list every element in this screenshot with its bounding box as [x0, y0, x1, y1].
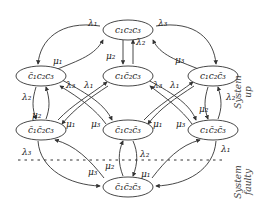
edge-label: λ₁ [169, 80, 179, 90]
edge-label: μ₁ [53, 56, 62, 66]
node-label: c₁c̄₂c̄₃ [200, 125, 226, 135]
markov-diagram: c₁c₂c₃ c̄₁c₂c₃ c₁c̄₂c₃ c₁c₂c̄₃ c̄₁c̄₂c₃ … [0, 0, 259, 207]
region-labels: System up System faulty [233, 75, 253, 198]
edge-label: λ₂ [135, 37, 146, 47]
edge-labels: λ₁ λ₃ μ₁ μ₃ λ₂ μ₂ λ₂ μ₂ λ₃ λ₁ μ₁ μ₃ λ₃ λ… [21, 18, 236, 179]
edge-label: λ₁ [220, 144, 230, 154]
edge-label: μ₃ [88, 167, 98, 177]
region-label-up-1: System [233, 75, 243, 108]
node-label: c₁c̄₂c₃ [115, 71, 141, 81]
edge-label: λ₂ [139, 149, 150, 159]
node-label: c̄₁c̄₂c₃ [28, 125, 54, 135]
edge-label: μ₁ [141, 169, 150, 179]
edge-label: λ₃ [157, 18, 168, 28]
edge-label: μ₃ [176, 119, 186, 129]
region-label-faulty-2: faulty [243, 168, 253, 196]
edge-label: μ₂ [106, 51, 116, 61]
edge-label: λ₃ [21, 147, 32, 157]
edge-label: λ₂ [21, 92, 32, 102]
node-label: c̄₁c₂c̄₃ [115, 125, 141, 135]
edge-label: μ₂ [105, 161, 115, 171]
region-label-faulty-1: System [233, 165, 243, 198]
node-label: c₁c₂c̄₃ [200, 71, 226, 81]
edges [33, 25, 221, 186]
edge-label: λ₃ [65, 80, 76, 90]
node-label: c̄₁c₂c₃ [28, 71, 54, 81]
edge-label: λ₁ [87, 18, 97, 28]
diagram-svg: c₁c₂c₃ c̄₁c₂c₃ c₁c̄₂c₃ c₁c₂c̄₃ c̄₁c̄₂c₃ … [0, 0, 259, 207]
region-label-up-2: up [243, 86, 253, 98]
node-label: c̄₁c̄₂c̄₃ [115, 182, 141, 192]
node-label: c₁c₂c₃ [115, 25, 141, 35]
edge-label: μ₃ [175, 55, 185, 65]
node-labels: c₁c₂c₃ c̄₁c₂c₃ c₁c̄₂c₃ c₁c₂c̄₃ c̄₁c̄₂c₃ … [28, 25, 226, 192]
edge-label: λ₁ [83, 80, 93, 90]
edge-label: μ₁ [66, 119, 75, 129]
edge-label: λ₃ [152, 80, 163, 90]
edge-label: μ₂ [32, 110, 42, 120]
edge-label: μ₁ [153, 119, 162, 129]
edge-label: μ₃ [91, 119, 101, 129]
edge-label: μ₂ [199, 104, 209, 114]
